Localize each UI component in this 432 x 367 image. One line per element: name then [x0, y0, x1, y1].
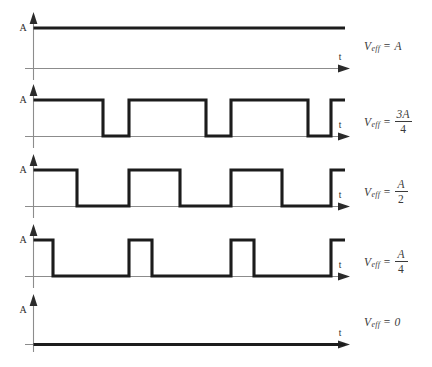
- equation-equals-sign: =: [384, 186, 391, 198]
- fraction-bar: [395, 191, 408, 192]
- fraction-bar: [395, 121, 412, 122]
- equation-equals-sign: =: [384, 116, 391, 128]
- equation-variable: V: [364, 116, 371, 128]
- panel-3-y-axis-arrowhead: [30, 154, 38, 166]
- panel-4-group: A t: [19, 224, 350, 288]
- equation-equals-sign: =: [384, 316, 391, 328]
- equation-equals-sign: =: [384, 256, 391, 268]
- equation-label-panel-3: Veff = A 2: [364, 178, 408, 205]
- panel-3-group: A t: [19, 154, 350, 218]
- fraction-numerator: A: [395, 178, 406, 190]
- equation-fraction: 3A 4: [395, 108, 412, 135]
- panel-4-x-axis-arrowhead: [338, 273, 350, 281]
- equation-variable: V: [364, 316, 371, 328]
- panel-3-x-axis-arrowhead: [338, 203, 350, 211]
- equation-label-panel-4: Veff = A 4: [364, 248, 408, 275]
- panel-5-y-axis-arrowhead: [30, 294, 38, 306]
- fraction-denominator: 4: [396, 263, 406, 275]
- equation-fraction: A 4: [395, 248, 408, 275]
- panel-1-y-axis-arrowhead: [30, 12, 38, 24]
- panel-4-x-axis-label: t: [339, 260, 342, 270]
- equation-subscript: eff: [372, 320, 381, 329]
- panel-1-y-axis-label: A: [19, 22, 27, 33]
- equation-label-panel-2: Veff = 3A 4: [364, 108, 412, 135]
- equation-equals-sign: =: [384, 40, 391, 52]
- panel-1-group: A t: [19, 12, 350, 80]
- panel-2-x-axis-arrowhead: [338, 133, 350, 141]
- equation-subscript: eff: [372, 44, 381, 53]
- fraction-bar: [395, 261, 408, 262]
- equation-label-panel-5: Veff = 0: [364, 316, 400, 328]
- equation-right-hand-side: 0: [395, 316, 401, 328]
- fraction-denominator: 4: [398, 123, 408, 135]
- equation-fraction: A 2: [395, 178, 408, 205]
- equation-subscript: eff: [372, 120, 381, 129]
- panel-2-y-axis-arrowhead: [30, 84, 38, 96]
- panel-4-y-axis-label: A: [19, 234, 27, 245]
- equation-label-panel-1: Veff = A: [364, 40, 402, 52]
- waveform-figure: A t A t A t: [0, 0, 432, 367]
- panel-1-x-axis-label: t: [339, 52, 342, 62]
- panel-3-x-axis-label: t: [339, 190, 342, 200]
- equation-variable: V: [364, 186, 371, 198]
- panel-4-y-axis-arrowhead: [30, 224, 38, 236]
- panel-5-x-axis-label: t: [339, 328, 342, 338]
- panel-5-group: A t: [19, 294, 350, 352]
- fraction-numerator: 3A: [395, 108, 412, 120]
- equation-variable: V: [364, 40, 371, 52]
- panel-3-y-axis-label: A: [19, 164, 27, 175]
- fraction-denominator: 2: [396, 193, 406, 205]
- panel-3-signal-trace: [34, 170, 346, 206]
- fraction-numerator: A: [395, 248, 406, 260]
- panel-2-group: A t: [19, 84, 350, 148]
- panel-4-signal-trace: [34, 240, 346, 276]
- equation-variable: V: [364, 256, 371, 268]
- panel-2-signal-trace: [34, 100, 346, 136]
- equation-right-hand-side: A: [395, 40, 402, 52]
- panel-1-x-axis-arrowhead: [338, 65, 350, 73]
- panel-5-y-axis-label: A: [19, 304, 27, 315]
- equation-subscript: eff: [372, 190, 381, 199]
- panel-2-y-axis-label: A: [19, 94, 27, 105]
- panel-2-x-axis-label: t: [339, 120, 342, 130]
- equation-subscript: eff: [372, 260, 381, 269]
